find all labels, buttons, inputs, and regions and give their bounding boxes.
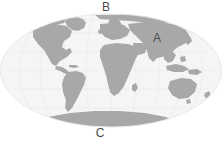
mollweide-world-map	[0, 0, 222, 142]
map-label-b: B	[100, 1, 112, 13]
map-label-c: C	[94, 127, 106, 139]
world-map-figure: B A C	[0, 0, 222, 142]
philippines-landmass	[180, 56, 186, 62]
map-label-a: A	[151, 32, 163, 44]
